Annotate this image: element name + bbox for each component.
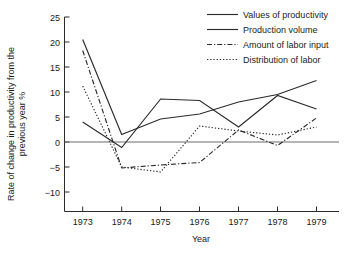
x-tick-label: 1978 [267, 217, 287, 227]
legend-label-production-volume: Production volume [243, 25, 318, 35]
series-distribution-of-labor [83, 86, 317, 172]
legend-label-amount-of-labor-input: Amount of labor input [243, 40, 329, 50]
y-tick-label: 5 [55, 113, 60, 123]
y-tick-label: 25 [50, 13, 60, 23]
y-tick-marks [65, 17, 70, 192]
x-tick-label: 1973 [73, 217, 93, 227]
y-tick-labels: 25 20 15 10 5 0 −5 −10 [45, 13, 60, 198]
y-axis-title-line2: previous year % [17, 92, 27, 157]
y-tick-label: 15 [50, 63, 60, 73]
series-production-volume [83, 96, 317, 148]
series-amount-of-labor-input [83, 51, 317, 169]
chart-figure: 25 20 15 10 5 0 −5 −10 1973 1974 1975 19… [0, 0, 355, 261]
y-axis-title-line1: Rate of change in productivity from the [6, 47, 16, 201]
x-tick-label: 1974 [112, 217, 132, 227]
line-chart: 25 20 15 10 5 0 −5 −10 1973 1974 1975 19… [0, 0, 355, 261]
x-tick-label: 1977 [228, 217, 248, 227]
y-tick-label: 10 [50, 88, 60, 98]
chart-legend: Values of productivity Production volume… [207, 10, 329, 65]
y-axis-title: Rate of change in productivity from the … [6, 47, 27, 201]
y-tick-label: 20 [50, 38, 60, 48]
y-tick-label: −5 [50, 163, 60, 173]
y-tick-label: 0 [55, 138, 60, 148]
x-tick-labels: 1973 1974 1975 1976 1977 1978 1979 [73, 217, 327, 227]
x-tick-label: 1979 [306, 217, 326, 227]
series-values-of-productivity [83, 40, 317, 135]
legend-label-values-of-productivity: Values of productivity [243, 10, 328, 20]
x-axis-title: Year [192, 234, 210, 244]
x-tick-label: 1975 [150, 217, 170, 227]
y-tick-label: −10 [45, 188, 60, 198]
x-tick-label: 1976 [189, 217, 209, 227]
legend-label-distribution-of-labor: Distribution of labor [243, 55, 321, 65]
x-tick-marks [83, 207, 317, 212]
